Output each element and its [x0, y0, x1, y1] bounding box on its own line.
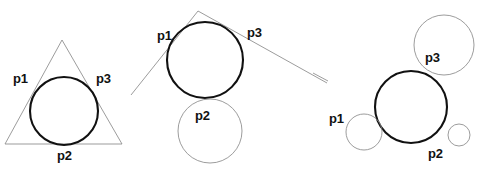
panel-right-tangent-circle-p3: [414, 15, 474, 75]
panel-left-incircle: [30, 77, 98, 145]
panel-middle-tangent-circle-bottom: [178, 99, 242, 163]
panel-middle-tangent-line-left: [131, 11, 198, 95]
panel-middle-label-p2: p2: [195, 109, 210, 123]
panel-middle-label-p3: p3: [247, 26, 262, 40]
panel-middle-main-circle: [167, 22, 243, 98]
panel-left-label-p2: p2: [57, 149, 72, 163]
panel-right-tangent-circle-p2: [448, 124, 470, 146]
panel-middle-label-p1: p1: [157, 29, 172, 43]
panel-right-label-p2: p2: [428, 147, 443, 161]
panel-right-label-p1: p1: [329, 112, 344, 126]
panel-right-tangent-circle-p1: [346, 114, 382, 150]
figure-container: p1p3p2p1p3p2p1p3p2: [0, 0, 484, 177]
panel-middle-tangent-line-right: [198, 11, 327, 83]
panel-right-label-p3: p3: [425, 51, 440, 65]
panel-left: [5, 40, 122, 145]
geometry-diagram-canvas: [0, 0, 484, 177]
panel-right-main-circle: [375, 71, 447, 143]
panel-left-label-p1: p1: [13, 72, 28, 86]
panel-right: [313, 15, 474, 150]
panel-left-label-p3: p3: [96, 72, 111, 86]
panel-left-triangle: [5, 40, 122, 144]
